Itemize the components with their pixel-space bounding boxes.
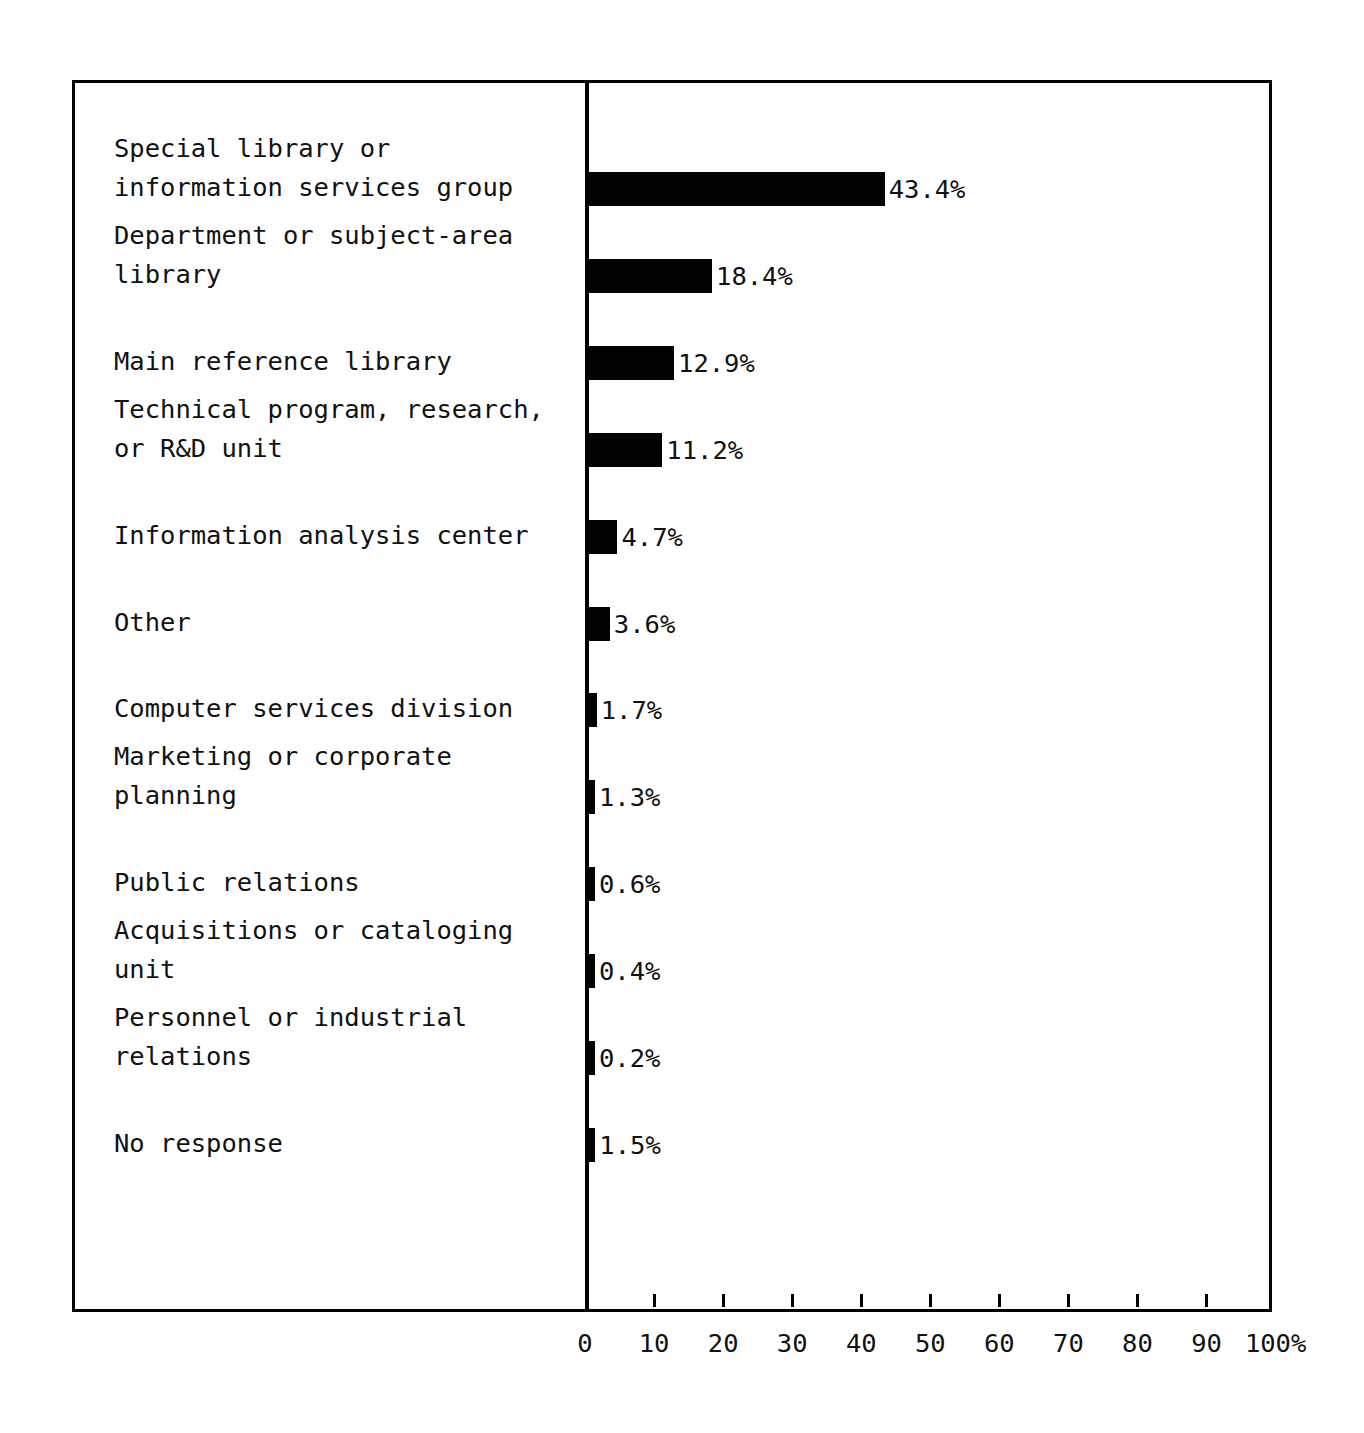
category-label: Other xyxy=(114,603,191,642)
category-label-line-2: information services group xyxy=(114,168,513,207)
bar xyxy=(585,780,595,814)
category-label: Department or subject-arealibrary xyxy=(114,216,513,294)
chart-page: Special library orinformation services g… xyxy=(0,0,1364,1433)
x-axis-tick-label: 100% xyxy=(1245,1326,1306,1360)
bar-value-label: 0.6% xyxy=(599,867,660,901)
category-label-line-2: library xyxy=(114,255,513,294)
bar-value-label: 18.4% xyxy=(716,259,793,293)
x-axis-line xyxy=(72,1309,1272,1312)
bar-value-label: 1.3% xyxy=(599,780,660,814)
bar-value-label: 12.9% xyxy=(678,346,755,380)
bar-value-label: 43.4% xyxy=(889,172,966,206)
category-label-line-1: Computer services division xyxy=(114,689,513,728)
x-axis-tick-label: 0 xyxy=(577,1326,592,1360)
category-label: Computer services division xyxy=(114,689,513,728)
bar xyxy=(585,433,662,467)
x-axis-tick xyxy=(860,1294,863,1307)
x-axis-tick-label: 90 xyxy=(1191,1326,1222,1360)
bar-value-label: 4.7% xyxy=(621,520,682,554)
bar-rows-container: Special library orinformation services g… xyxy=(72,80,1272,1312)
category-label-line-1: Department or subject-area xyxy=(114,216,513,255)
bar xyxy=(585,607,610,641)
x-axis-tick xyxy=(929,1294,932,1307)
category-label-line-1: Personnel or industrial xyxy=(114,998,467,1037)
bar-value-label: 0.2% xyxy=(599,1041,660,1075)
bar xyxy=(585,954,595,988)
bar-value-label: 11.2% xyxy=(666,433,743,467)
x-axis-tick xyxy=(722,1294,725,1307)
category-label-line-2: or R&D unit xyxy=(114,429,544,468)
category-label-line-1: Other xyxy=(114,603,191,642)
x-axis-tick xyxy=(1067,1294,1070,1307)
bar xyxy=(585,346,674,380)
category-label-line-2: relations xyxy=(114,1037,467,1076)
category-label-line-2: unit xyxy=(114,950,513,989)
bar-value-label: 3.6% xyxy=(614,607,675,641)
category-label: Main reference library xyxy=(114,342,452,381)
x-axis-tick-label: 40 xyxy=(846,1326,877,1360)
category-label: Special library orinformation services g… xyxy=(114,129,513,207)
category-label-line-1: Acquisitions or cataloging xyxy=(114,911,513,950)
category-label: No response xyxy=(114,1124,283,1163)
category-label: Information analysis center xyxy=(114,516,529,555)
category-label: Marketing or corporateplanning xyxy=(114,737,452,815)
category-label: Technical program, research,or R&D unit xyxy=(114,390,544,468)
x-axis-tick-label: 70 xyxy=(1053,1326,1084,1360)
bar xyxy=(585,1128,595,1162)
x-axis-tick xyxy=(653,1294,656,1307)
category-label-line-1: No response xyxy=(114,1124,283,1163)
x-axis-tick-label: 10 xyxy=(639,1326,670,1360)
x-axis-tick xyxy=(1136,1294,1139,1307)
bar xyxy=(585,172,885,206)
category-label: Public relations xyxy=(114,863,360,902)
category-label-line-1: Public relations xyxy=(114,863,360,902)
bar-value-label: 0.4% xyxy=(599,954,660,988)
category-label-line-1: Main reference library xyxy=(114,342,452,381)
bar xyxy=(585,520,617,554)
x-axis-tick xyxy=(998,1294,1001,1307)
bar-value-label: 1.7% xyxy=(601,693,662,727)
category-label: Personnel or industrialrelations xyxy=(114,998,467,1076)
category-label: Acquisitions or catalogingunit xyxy=(114,911,513,989)
category-label-line-2: planning xyxy=(114,776,452,815)
bar xyxy=(585,259,712,293)
category-label-line-1: Special library or xyxy=(114,129,513,168)
x-axis-tick xyxy=(1205,1294,1208,1307)
x-axis-tick-label: 20 xyxy=(708,1326,739,1360)
x-axis-tick-label: 60 xyxy=(984,1326,1015,1360)
bar xyxy=(585,693,597,727)
bar-value-label: 1.5% xyxy=(599,1128,660,1162)
x-axis-tick xyxy=(791,1294,794,1307)
x-axis-tick-label: 30 xyxy=(777,1326,808,1360)
x-axis-tick-label: 80 xyxy=(1122,1326,1153,1360)
bar xyxy=(585,867,595,901)
category-label-line-1: Information analysis center xyxy=(114,516,529,555)
category-label-line-1: Marketing or corporate xyxy=(114,737,452,776)
category-label-line-1: Technical program, research, xyxy=(114,390,544,429)
bar xyxy=(585,1041,595,1075)
x-axis-tick-label: 50 xyxy=(915,1326,946,1360)
